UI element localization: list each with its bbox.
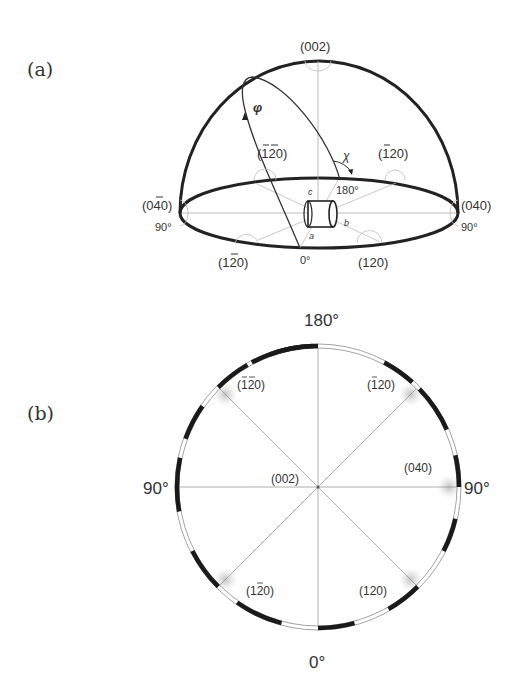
phi-symbol: φ xyxy=(253,100,262,115)
ring-inner xyxy=(179,348,457,626)
angle-label-right-90: 90° xyxy=(464,479,490,498)
angle-label-left-90: 90° xyxy=(155,221,172,233)
angle-label-right-90: 90° xyxy=(461,221,478,233)
plane-label-left: (040) xyxy=(142,197,172,213)
angle-label-front-0: 0° xyxy=(300,254,311,266)
svg-text:(120): (120) xyxy=(246,584,274,598)
svg-text:(120): (120) xyxy=(367,378,395,392)
svg-text:(120): (120) xyxy=(257,146,287,161)
ring-black-segment xyxy=(419,389,446,430)
ring-black-segment xyxy=(455,455,459,487)
panel-a-hemisphere-diagram: φ χ c b a (002) (120) (120) (040) (040) … xyxy=(0,0,530,300)
ring-outer xyxy=(175,344,461,630)
plane-label-lower-right: (120) xyxy=(359,584,387,598)
polar-plot xyxy=(175,344,461,630)
svg-text:(120): (120) xyxy=(378,146,408,161)
angle-label-bottom-0: 0° xyxy=(309,653,325,672)
plane-label-lower-left: (120) xyxy=(246,583,274,598)
ring-black-segment xyxy=(186,406,203,439)
plane-label-002: (002) xyxy=(300,39,330,54)
angle-label-left-90: 90° xyxy=(143,479,169,498)
ring-black-segment xyxy=(384,363,412,383)
svg-text:(040): (040) xyxy=(142,198,172,213)
ring-black-segment xyxy=(252,346,318,363)
ring-black-segment xyxy=(444,519,456,551)
diffraction-spot xyxy=(399,382,423,406)
dome-outline xyxy=(180,61,458,213)
plane-label-back-right: (120) xyxy=(378,145,408,161)
angle-label-back-180: 180° xyxy=(336,184,359,196)
plane-label-front-right: (120) xyxy=(358,255,388,270)
diffraction-spot xyxy=(213,382,237,406)
axis-b-label: b xyxy=(344,218,349,228)
plane-label-002: (002) xyxy=(271,472,299,486)
ring-black-segment xyxy=(318,623,354,628)
center-point xyxy=(317,486,320,489)
plane-label-upper-right: (120) xyxy=(367,377,395,392)
chi-symbol: χ xyxy=(342,149,350,163)
diffraction-spot xyxy=(437,475,461,499)
ring-black-segment xyxy=(177,458,180,512)
svg-text:(120): (120) xyxy=(218,255,248,270)
radial-line xyxy=(220,389,417,586)
ring-black-segment xyxy=(270,346,313,354)
plane-label-right: (040) xyxy=(404,461,432,475)
pole-marker-back-left xyxy=(254,169,276,180)
angle-label-top-180: 180° xyxy=(304,311,339,330)
plane-label-back-left: (120) xyxy=(257,145,287,161)
axis-a-label: a xyxy=(309,231,314,241)
chi-arrow-icon xyxy=(348,169,353,175)
radial-line xyxy=(220,389,417,586)
ring-black-segment xyxy=(237,603,281,624)
ring-black-segment xyxy=(192,551,218,587)
ring-black-segment xyxy=(389,587,418,609)
diffraction-spot xyxy=(399,568,423,592)
svg-text:(120): (120) xyxy=(237,378,265,392)
crystal-cylinder xyxy=(304,201,337,227)
ring-black-segment xyxy=(218,365,247,387)
axis-c-label: c xyxy=(308,187,313,197)
panel-b-label: (b) xyxy=(27,402,54,424)
plane-label-right: (040) xyxy=(461,198,491,213)
plane-label-front-left: (120) xyxy=(218,254,248,270)
diffraction-spot xyxy=(213,568,237,592)
plane-label-upper-left: (120) xyxy=(237,377,265,392)
pole-marker-back-right xyxy=(385,170,405,180)
